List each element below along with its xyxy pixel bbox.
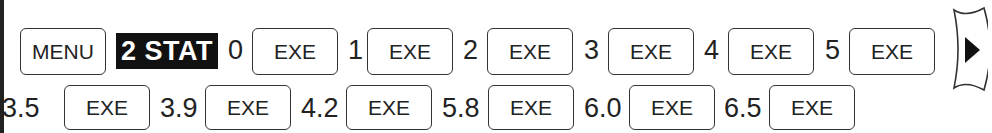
row1-value-4: 4 [704, 37, 719, 64]
row1-value-1: 1 [348, 37, 363, 64]
row2-value-3: 5.8 [442, 95, 480, 122]
exe-key-row2-1[interactable]: EXE [205, 85, 291, 130]
exe-key-row1-0[interactable]: EXE [252, 28, 338, 75]
row1-value-3: 3 [584, 37, 599, 64]
row1-value-5: 5 [825, 37, 840, 64]
exe-key-row1-2[interactable]: EXE [487, 28, 573, 75]
exe-key-row1-3[interactable]: EXE [608, 28, 694, 75]
row1-value-0: 0 [228, 37, 243, 64]
stat-mode-label: 2 STAT [116, 33, 218, 69]
exe-key-row2-5[interactable]: EXE [769, 85, 855, 130]
exe-key-row1-4[interactable]: EXE [728, 28, 814, 75]
row2-value-0: 3.5 [2, 95, 40, 122]
row2-value-4: 6.0 [584, 95, 622, 122]
row2-value-5: 6.5 [724, 95, 762, 122]
exe-key-row2-2[interactable]: EXE [346, 85, 432, 130]
exe-key-row2-3[interactable]: EXE [488, 85, 574, 130]
exe-key-row2-0[interactable]: EXE [64, 85, 150, 130]
menu-key[interactable]: MENU [20, 28, 106, 75]
exe-key-row1-1[interactable]: EXE [367, 28, 453, 75]
row1-value-2: 2 [463, 37, 478, 64]
exe-key-row2-4[interactable]: EXE [629, 85, 715, 130]
exe-key-row1-5[interactable]: EXE [849, 28, 935, 75]
right-arrow-key-icon[interactable] [944, 4, 988, 94]
row2-value-2: 4.2 [301, 95, 339, 122]
row2-value-1: 3.9 [160, 95, 198, 122]
